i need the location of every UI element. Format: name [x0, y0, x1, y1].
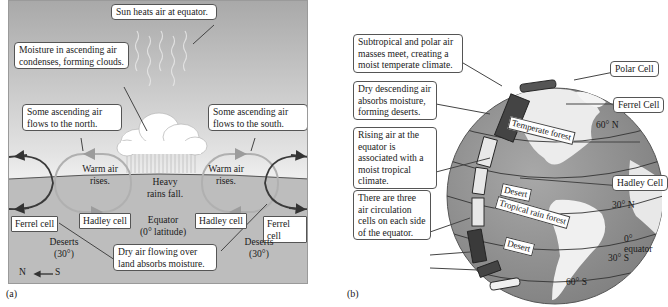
- label-deserts-left-lat: (30°): [41, 248, 87, 260]
- cell-hadley-left: Hadley cell: [79, 213, 131, 229]
- latitude-60s: 60° S: [566, 277, 587, 287]
- callout-tropical-climate: Rising air at the equator is associated …: [353, 127, 437, 189]
- label-equator-line1: Equator: [129, 214, 197, 226]
- label-heavy-rains: Heavy rains fall.: [144, 176, 186, 199]
- latitude-30n: 30° N: [612, 200, 635, 210]
- rain-icon: [127, 151, 195, 173]
- compass-south-label: S: [55, 267, 60, 277]
- cell-label-hadley: Hadley Cell: [612, 175, 668, 191]
- callout-air-flows-north: Some ascending air flows to the north.: [22, 104, 122, 131]
- panel-b-label: (b): [347, 288, 359, 299]
- label-deserts-right: Deserts (30°): [236, 236, 282, 259]
- label-deserts-left: Deserts (30°): [41, 236, 87, 259]
- panel-a-label: (a): [6, 288, 17, 299]
- cell-ferrel-left: Ferrel cell: [11, 216, 58, 232]
- label-deserts-right-lat: (30°): [236, 248, 282, 260]
- label-deserts-right-name: Deserts: [236, 236, 282, 248]
- cloud-icon: [117, 113, 207, 156]
- callout-dry-air: Dry air flowing over land absorbs moistu…: [113, 244, 217, 271]
- latitude-30s: 30° S: [608, 253, 629, 263]
- callout-deserts-formation: Dry descending air absorbs moisture, for…: [353, 81, 437, 120]
- latitude-equator: 0° equator: [624, 234, 662, 254]
- callout-sun-heats-air: Sun heats air at equator.: [111, 4, 217, 20]
- label-equator: Equator (0° latitude): [129, 214, 197, 237]
- cell-hadley-right: Hadley cell: [195, 213, 247, 229]
- callout-moisture-condenses: Moisture in ascending air condenses, for…: [14, 42, 129, 69]
- label-warm-air-rises-right: Warm air rises.: [203, 163, 249, 186]
- callout-temperate-climate: Subtropical and polar air masses meet, c…: [353, 34, 463, 73]
- callout-three-cells: There are three air circulation cells on…: [353, 190, 431, 240]
- label-deserts-left-name: Deserts: [41, 236, 87, 248]
- panel-b-globe-circulation: Subtropical and polar air masses meet, c…: [330, 0, 662, 307]
- callout-air-flows-south: Some ascending air flows to the south.: [208, 104, 308, 131]
- latitude-60n: 60° N: [596, 120, 619, 130]
- heat-waves-icon: [136, 31, 187, 86]
- panel-a-atmospheric-circulation: Sun heats air at equator. Moisture in as…: [8, 0, 308, 284]
- label-warm-air-rises-left: Warm air rises.: [77, 163, 123, 186]
- cell-label-polar: Polar Cell: [610, 61, 659, 77]
- label-equator-line2: (0° latitude): [129, 226, 197, 238]
- compass-north-label: N: [19, 267, 26, 277]
- cell-label-ferrel: Ferrel Cell: [613, 97, 664, 113]
